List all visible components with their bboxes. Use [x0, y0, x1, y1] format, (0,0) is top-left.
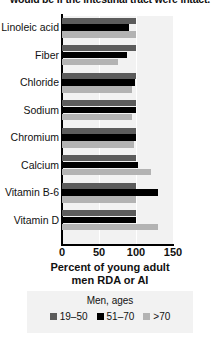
caption-text: would be if the intestinal tract were in…: [10, 0, 210, 5]
legend-item: 51–70: [97, 311, 135, 322]
bar-1: [62, 162, 138, 168]
legend-item: 19–50: [50, 311, 88, 322]
x-axis-title: Percent of young adult men RDA or AI: [0, 261, 220, 286]
bar-group: [62, 210, 173, 232]
legend: Men, ages 19–5051–70>70: [27, 291, 193, 333]
page-caption: would be if the intestinal tract were in…: [0, 0, 220, 11]
bar-row: Vitamin D: [0, 207, 220, 235]
x-axis-title-line2: men RDA or AI: [0, 274, 220, 287]
bar-2: [62, 31, 136, 37]
bar-row: Sodium: [0, 97, 220, 125]
category-label: Chloride: [20, 76, 59, 88]
x-tick-label: 100: [127, 246, 145, 258]
bar-row: Vitamin B-6: [0, 179, 220, 207]
category-label: Linoleic acid: [1, 21, 59, 33]
x-tick-label: 150: [164, 246, 182, 258]
x-tick-label: 50: [93, 246, 105, 258]
x-axis-ticks: 050100150: [0, 246, 220, 260]
bar-0: [62, 183, 136, 189]
category-label: Vitamin D: [14, 214, 59, 226]
bar-chart: Linoleic acidFiberChlorideSodiumChromium…: [0, 14, 220, 246]
bar-row: Chromium: [0, 124, 220, 152]
legend-title: Men, ages: [27, 295, 193, 306]
bar-group: [62, 72, 173, 94]
bar-group: [62, 182, 173, 204]
x-tick-label: 0: [59, 246, 65, 258]
bar-row: Calcium: [0, 152, 220, 180]
legend-label: 19–50: [60, 311, 88, 322]
bar-1: [62, 189, 158, 195]
bar-2: [62, 114, 132, 120]
bar-2: [62, 59, 118, 65]
bar-2: [62, 86, 132, 92]
bar-2: [62, 169, 151, 175]
legend-swatch-icon: [143, 313, 150, 320]
category-label: Chromium: [11, 131, 59, 143]
legend-label: 51–70: [107, 311, 135, 322]
bar-2: [62, 196, 136, 202]
bar-2: [62, 141, 134, 147]
category-label: Vitamin B-6: [5, 186, 59, 198]
bar-0: [62, 100, 136, 106]
legend-item: >70: [143, 311, 170, 322]
bar-group: [62, 127, 173, 149]
bar-group: [62, 17, 173, 39]
bar-1: [62, 79, 135, 85]
bar-1: [62, 134, 136, 140]
bar-1: [62, 107, 136, 113]
bar-0: [62, 73, 136, 79]
x-axis-title-line1: Percent of young adult: [0, 261, 220, 274]
category-label: Calcium: [21, 159, 59, 171]
bar-group: [62, 100, 173, 122]
bar-row: Fiber: [0, 42, 220, 70]
category-label: Sodium: [23, 104, 59, 116]
bar-group: [62, 155, 173, 177]
legend-swatch-icon: [50, 313, 57, 320]
legend-items: 19–5051–70>70: [27, 311, 193, 322]
bar-0: [62, 18, 136, 24]
bar-1: [62, 52, 127, 58]
category-label: Fiber: [35, 49, 59, 61]
bar-1: [62, 24, 129, 30]
legend-swatch-icon: [97, 313, 104, 320]
bar-row: Linoleic acid: [0, 14, 220, 42]
bar-0: [62, 128, 136, 134]
bar-2: [62, 224, 158, 230]
bar-0: [62, 210, 136, 216]
legend-label: >70: [153, 311, 170, 322]
bar-row: Chloride: [0, 69, 220, 97]
bar-0: [62, 45, 136, 51]
bar-group: [62, 45, 173, 67]
bar-1: [62, 217, 136, 223]
bar-0: [62, 155, 136, 161]
